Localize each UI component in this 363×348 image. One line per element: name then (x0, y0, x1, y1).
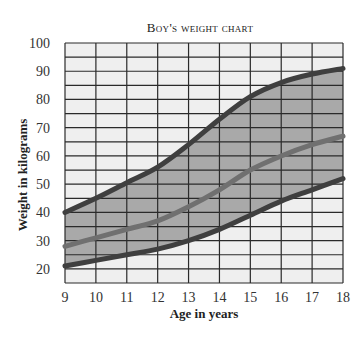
x-tick-label: 16 (274, 290, 288, 305)
y-tick-label: 50 (36, 177, 50, 192)
y-tick-label: 100 (29, 36, 50, 51)
y-tick-label: 70 (36, 121, 50, 136)
x-tick-label: 18 (336, 290, 350, 305)
y-tick-label: 90 (36, 64, 50, 79)
y-axis-label: Weight in kilograms (15, 119, 30, 232)
y-tick-label: 20 (36, 262, 50, 277)
x-tick-label: 9 (62, 290, 69, 305)
y-tick-label: 80 (36, 92, 50, 107)
y-tick-label: 60 (36, 149, 50, 164)
x-axis-ticks: 9101112131415161718 (62, 290, 351, 305)
x-tick-label: 12 (151, 290, 165, 305)
x-tick-label: 14 (212, 290, 226, 305)
y-tick-label: 30 (36, 234, 50, 249)
x-tick-label: 10 (89, 290, 103, 305)
y-tick-label: 40 (36, 205, 50, 220)
chart-title: Boy's weight chart (147, 20, 254, 35)
boys-weight-chart: Boy's weight chart 1009080706050403020 9… (0, 0, 363, 348)
x-tick-label: 11 (120, 290, 133, 305)
y-axis-ticks: 1009080706050403020 (29, 36, 50, 277)
x-tick-label: 15 (243, 290, 257, 305)
x-tick-label: 13 (182, 290, 196, 305)
x-axis-label: Age in years (170, 306, 239, 321)
x-tick-label: 17 (305, 290, 319, 305)
plot-area (65, 43, 343, 283)
